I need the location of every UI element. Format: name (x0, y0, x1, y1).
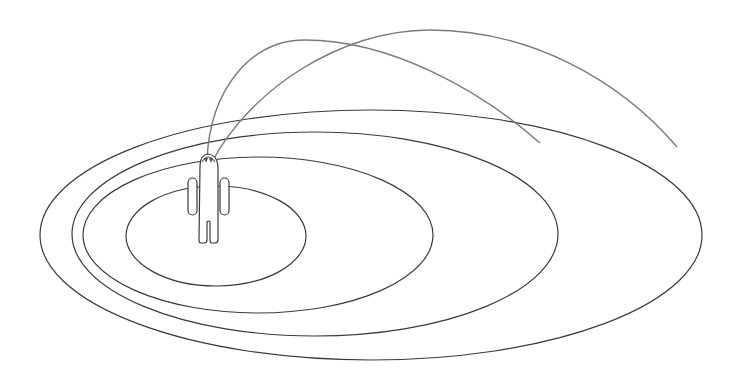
body (199, 154, 218, 243)
left-arm (188, 178, 197, 215)
third-ring (83, 157, 433, 313)
long-arc (212, 30, 677, 162)
person-figure-icon (188, 154, 229, 243)
second-ring (72, 132, 558, 336)
outer-ring (40, 110, 702, 360)
diagram-svg (0, 0, 743, 383)
zone-rings (40, 110, 702, 360)
short-arc (207, 40, 540, 160)
diagram-canvas (0, 0, 743, 383)
right-arm (220, 178, 229, 215)
trajectory-arcs (207, 30, 677, 162)
